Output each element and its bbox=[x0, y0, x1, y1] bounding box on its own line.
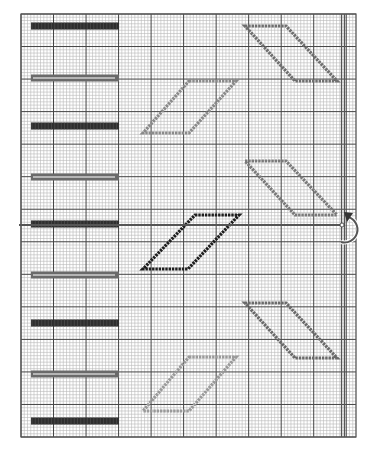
rotate-arrow-icon[interactable] bbox=[340, 212, 357, 242]
bar-dark bbox=[31, 418, 119, 425]
parallelogram-motifs bbox=[143, 26, 337, 411]
stitch-chart-diagram bbox=[0, 0, 376, 453]
rotate-handle bbox=[340, 223, 344, 227]
bar-dark bbox=[31, 320, 119, 327]
bar-dark bbox=[31, 123, 119, 130]
bar-dark bbox=[31, 23, 119, 30]
parallelogram-bottom-left bbox=[143, 357, 236, 411]
